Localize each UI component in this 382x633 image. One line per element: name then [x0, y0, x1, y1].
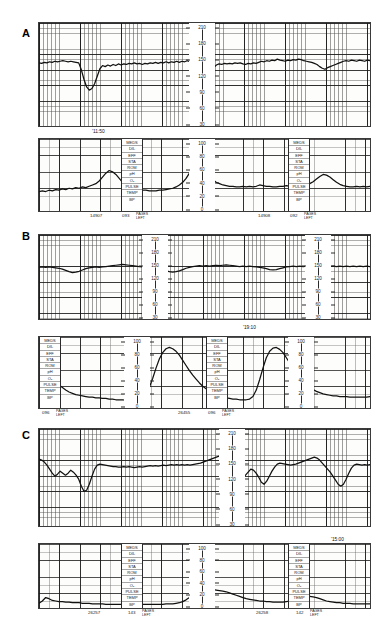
scale-tick: 100 — [288, 339, 314, 344]
fhr-trace-c — [39, 429, 370, 527]
panel-b-fhr-strip[interactable]: 210180150120906030 210180150120906030 — [38, 234, 371, 320]
toco-trace-b — [39, 337, 370, 409]
panel-c-fhr-strip[interactable]: 210180150120906030 — [38, 428, 371, 527]
clinical-annotation-column: MEDSDILEFFSTAROMpHO₂PULSETEMPBP — [206, 337, 228, 408]
annotation-temp: TEMP — [289, 595, 309, 601]
footer-count: 096 — [208, 410, 215, 415]
annotation-meds: MEDS — [289, 140, 309, 146]
scale-tick: 60 — [142, 302, 168, 307]
clinical-annotation-column: MEDSDILEFFSTAROMpHO₂PULSETEMPBP — [121, 139, 143, 211]
clinical-annotation-column: MEDSDILEFFSTAROMpHO₂PULSETEMPBP — [288, 544, 310, 608]
panel-a-fhr-strip[interactable]: 210180150120906030 — [38, 22, 371, 127]
annotation-dil: DIL — [122, 146, 142, 152]
annotation-rom: ROM — [207, 363, 227, 369]
annotation-sta: STA — [122, 564, 142, 570]
grid-fine — [39, 139, 370, 211]
annotation-temp: TEMP — [122, 595, 142, 601]
signal-path — [39, 455, 370, 491]
annotation-sta: STA — [122, 159, 142, 165]
toco-trace-c — [39, 544, 370, 609]
left-word: LEFT — [136, 216, 145, 220]
annotation-eff: EFF — [207, 351, 227, 357]
annotation-ph: pH — [207, 369, 227, 375]
scale-tick: 90 — [219, 491, 245, 496]
footer-id: 26258 — [256, 610, 268, 615]
grid-fine — [39, 337, 370, 408]
panel-c-toco-strip[interactable]: MEDSDILEFFSTAROMpHO₂PULSETEMPBP MEDSDILE… — [38, 543, 371, 609]
scale-tick: 30 — [142, 315, 168, 320]
scale-tick: 100 — [124, 339, 150, 344]
annotation-bp: BP — [289, 602, 309, 607]
panel-letter-b: B — [22, 231, 30, 242]
grid-fine — [39, 235, 370, 319]
scale-tick: 210 — [305, 237, 331, 242]
annotation-sta: STA — [40, 357, 60, 363]
grid-major — [39, 235, 370, 319]
scale-tick: 150 — [219, 461, 245, 466]
axis-line — [202, 141, 203, 209]
annotation-bp: BP — [122, 602, 142, 607]
scale-tick: 60 — [189, 167, 215, 172]
annotation-sta: STA — [289, 564, 309, 570]
fhr-trace-b — [39, 235, 370, 320]
fhr-scale-a: 210180150120906030 — [189, 23, 215, 126]
signal-path — [39, 347, 370, 400]
annotation-temp: TEMP — [289, 190, 309, 196]
annotation-bp: BP — [40, 395, 60, 400]
scale-tick: 20 — [189, 193, 215, 198]
axis-line — [137, 339, 138, 406]
grid-fine — [39, 23, 370, 126]
annotation-bp: BP — [207, 395, 227, 400]
annotation-ph: pH — [289, 171, 309, 177]
annotation-rom: ROM — [122, 165, 142, 171]
annotation-meds: MEDS — [122, 545, 142, 551]
scale-tick: 150 — [305, 263, 331, 268]
footer-pages-label: PAGES LEFT — [56, 409, 68, 417]
annotation-temp: TEMP — [207, 388, 227, 394]
footer-pages-label: PAGES LEFT — [222, 409, 234, 417]
scale-tick: 210 — [219, 431, 245, 436]
annotation-pulse: PULSE — [122, 184, 142, 190]
footer-count: 092 — [290, 213, 297, 218]
toco-scale-b-right: 100806040200 — [288, 337, 314, 408]
fhr-scale-b-left: 210180150120906030 — [142, 235, 168, 319]
scale-tick: 40 — [189, 580, 215, 585]
annotation-meds: MEDS — [122, 140, 142, 146]
annotation-meds: MEDS — [207, 338, 227, 344]
axis-line — [202, 25, 203, 124]
scale-tick: 80 — [189, 154, 215, 159]
scale-tick: 30 — [305, 315, 331, 320]
scale-tick: 60 — [189, 569, 215, 574]
annotation-eff: EFF — [289, 153, 309, 159]
annotation-dil: DIL — [289, 551, 309, 557]
footer-id: 26257 — [88, 610, 100, 615]
scale-tick: 180 — [189, 41, 215, 46]
annotation-ph: pH — [289, 576, 309, 582]
annotation-sta: STA — [207, 357, 227, 363]
grid-fine — [39, 429, 370, 526]
fhr-scale-b-right: 210180150120906030 — [305, 235, 331, 319]
ctg-strip-page: A 210180150120906030 '11:50 MEDSDILEFFST… — [0, 0, 382, 633]
axis-line — [232, 431, 233, 524]
panel-a-toco-strip[interactable]: MEDSDILEFFSTAROMpHO₂PULSETEMPBP MEDSDILE… — [38, 138, 371, 212]
annotation-eff: EFF — [122, 153, 142, 159]
scale-tick: 40 — [124, 378, 150, 383]
grid-major — [39, 337, 370, 408]
scale-tick: 20 — [288, 391, 314, 396]
scale-tick: 20 — [124, 391, 150, 396]
scale-tick: 60 — [189, 105, 215, 110]
annotation-rom: ROM — [40, 363, 60, 369]
axis-line — [301, 339, 302, 406]
annotation-dil: DIL — [122, 551, 142, 557]
annotation-bp: BP — [289, 197, 309, 202]
scale-tick: 100 — [189, 141, 215, 146]
scale-tick: 0 — [124, 404, 150, 409]
scale-tick: 20 — [189, 592, 215, 597]
scale-tick: 150 — [142, 263, 168, 268]
annotation-dil: DIL — [40, 344, 60, 350]
scale-tick: 40 — [189, 180, 215, 185]
panel-b-toco-strip[interactable]: MEDSDILEFFSTAROMpHO₂PULSETEMPBP MEDSDILE… — [38, 336, 371, 409]
grid-major — [39, 544, 370, 608]
annotation-ph: pH — [122, 576, 142, 582]
footer-id: 26455 — [178, 410, 190, 415]
